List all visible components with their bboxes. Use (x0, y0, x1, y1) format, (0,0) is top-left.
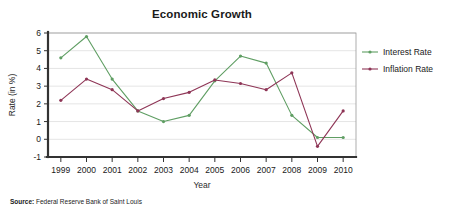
data-point (188, 91, 191, 94)
data-point (265, 88, 268, 91)
data-point (111, 77, 114, 80)
source-note: Source: Federal Reserve Bank of Saint Lo… (10, 198, 142, 205)
y-tick-label: 5 (36, 46, 41, 56)
data-point (111, 88, 114, 91)
chart-canvas: Economic Growth-101234561999200020012002… (0, 0, 450, 213)
data-point (85, 35, 88, 38)
x-tick-label: 2004 (180, 165, 199, 175)
data-point (265, 62, 268, 65)
series-line-0 (61, 37, 343, 138)
y-tick-label: 3 (36, 81, 41, 91)
economic-growth-chart: Economic Growth-101234561999200020012002… (0, 0, 450, 213)
x-tick-label: 2000 (77, 165, 96, 175)
y-tick-label: 1 (36, 117, 41, 127)
x-tick-label: 2008 (282, 165, 301, 175)
legend-marker-0 (368, 50, 371, 53)
data-point (342, 109, 345, 112)
data-point (213, 78, 216, 81)
data-point (59, 56, 62, 59)
data-point (316, 136, 319, 139)
x-tick-label: 2006 (231, 165, 250, 175)
data-point (59, 99, 62, 102)
x-tick-label: 2005 (205, 165, 224, 175)
data-point (316, 145, 319, 148)
x-tick-label: 2009 (308, 165, 327, 175)
legend-label-0: Interest Rate (383, 47, 432, 57)
legend-marker-1 (368, 67, 371, 70)
y-tick-label: -1 (33, 152, 41, 162)
data-point (162, 120, 165, 123)
data-point (239, 82, 242, 85)
y-tick-label: 4 (36, 63, 41, 73)
legend-label-1: Inflation Rate (383, 64, 433, 74)
x-tick-label: 2007 (257, 165, 276, 175)
x-tick-label: 2010 (334, 165, 353, 175)
source-label: Source: (10, 198, 34, 205)
plot-frame (48, 33, 356, 157)
data-point (290, 71, 293, 74)
data-point (342, 136, 345, 139)
data-point (85, 77, 88, 80)
x-tick-label: 2002 (128, 165, 147, 175)
y-tick-label: 6 (36, 28, 41, 38)
x-tick-label: 2001 (103, 165, 122, 175)
series-line-1 (61, 73, 343, 147)
chart-title: Economic Growth (152, 8, 252, 20)
data-point (188, 114, 191, 117)
y-tick-label: 0 (36, 134, 41, 144)
data-point (239, 54, 242, 57)
x-axis-title: Year (193, 180, 210, 190)
data-point (162, 97, 165, 100)
x-tick-label: 2003 (154, 165, 173, 175)
source-text: Federal Reserve Bank of Saint Louis (36, 198, 142, 205)
x-tick-label: 1999 (51, 165, 70, 175)
y-tick-label: 2 (36, 99, 41, 109)
y-axis-title: Rate (in %) (7, 74, 17, 117)
data-point (290, 114, 293, 117)
data-point (136, 109, 139, 112)
